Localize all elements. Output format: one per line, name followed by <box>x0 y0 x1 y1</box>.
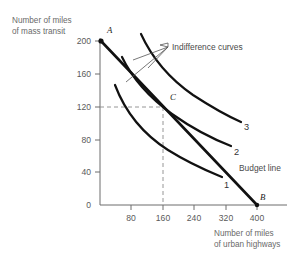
curve-1-label: 1 <box>224 180 229 190</box>
point-b-label: B <box>260 192 266 202</box>
curve-2-label: 2 <box>234 147 239 157</box>
economics-indifference-curve-chart: Number of miles of mass transit 200 160 … <box>0 0 300 260</box>
x-tick-label-160: 160 <box>156 213 171 223</box>
y-axis-title-line2: of mass transit <box>12 27 66 36</box>
point-c-label: C <box>170 92 176 102</box>
curve-3-label: 3 <box>244 122 249 132</box>
x-tick-label-240: 240 <box>187 213 202 223</box>
y-tick-label-40: 40 <box>81 167 91 177</box>
y-axis-title-line1: Number of miles <box>12 16 72 25</box>
point-a-label: A <box>106 25 113 35</box>
y-tick-label-200: 200 <box>77 36 92 46</box>
point-b-marker <box>255 203 259 207</box>
y-tick-label-120: 120 <box>77 102 92 112</box>
indifference-curves-callout-label: Indifference curves <box>172 42 243 52</box>
x-tick-label-400: 400 <box>250 213 265 223</box>
budget-line-callout-label: Budget line <box>239 163 281 173</box>
y-tick-label-0: 0 <box>86 200 91 210</box>
x-tick-label-80: 80 <box>126 213 136 223</box>
y-tick-label-160: 160 <box>77 69 92 79</box>
x-tick-label-320: 320 <box>219 213 234 223</box>
x-axis-title-line2: of urban highways <box>214 240 280 249</box>
y-tick-label-80: 80 <box>81 135 91 145</box>
point-a-marker <box>98 38 103 43</box>
x-axis-title-line1: Number of miles <box>214 229 274 238</box>
